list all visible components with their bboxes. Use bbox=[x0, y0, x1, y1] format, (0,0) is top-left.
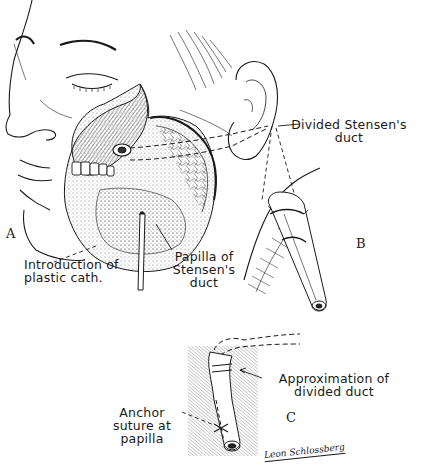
label-approximation-of-divided-duct: Approximation of divided duct bbox=[266, 372, 402, 398]
panel-label-b: B bbox=[356, 236, 366, 251]
label-line: duct bbox=[278, 131, 420, 144]
label-line: duct bbox=[168, 276, 240, 289]
panel-label-a: A bbox=[6, 226, 15, 241]
label-anchor-suture-at-papilla: Anchor suture at papilla bbox=[104, 406, 180, 445]
label-line: divided duct bbox=[266, 385, 402, 398]
label-line: papilla bbox=[104, 432, 180, 445]
medical-illustration: A B C Divided Stensen's duct Introductio… bbox=[0, 0, 421, 468]
panel-label-c: C bbox=[286, 410, 296, 425]
label-divided-stensens-duct: Divided Stensen's duct bbox=[278, 118, 420, 144]
panel-b-drawing bbox=[244, 168, 326, 311]
label-introduction-of-catheter: Introduction of plastic cath. bbox=[24, 258, 119, 284]
label-papilla-of-stensens-duct: Papilla of Stensen's duct bbox=[168, 250, 240, 289]
label-line: plastic cath. bbox=[24, 271, 119, 284]
